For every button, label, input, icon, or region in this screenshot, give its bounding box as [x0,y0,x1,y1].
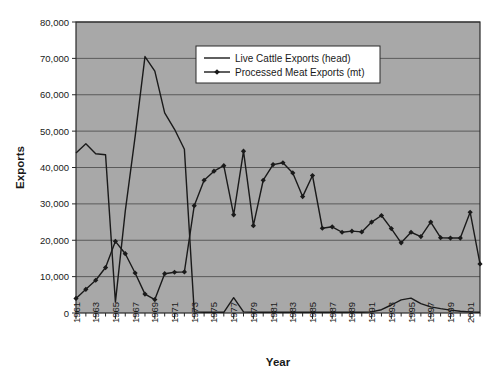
x-axis-tick-label: 1977 [228,302,239,323]
y-axis-tick-label: 60,000 [40,89,69,100]
exports-line-chart: 80,00070,00060,00050,00040,00030,00020,0… [0,0,500,375]
x-axis-tick-label: 1971 [169,302,180,323]
x-axis-tick-label: 1995 [406,302,417,323]
y-axis-title: Exports [14,146,26,189]
x-axis-tick-label: 1969 [149,302,160,323]
x-axis-title: Year [266,356,291,368]
y-axis-tick-label: 10,000 [40,271,69,282]
x-axis-tick-label: 1961 [71,302,82,323]
legend-label-processed-meat: Processed Meat Exports (mt) [235,67,364,78]
legend-label-live-cattle: Live Cattle Exports (head) [235,53,351,64]
y-axis-tick-label: 80,000 [40,17,69,28]
x-axis-tick-label: 1965 [110,302,121,323]
x-axis-tick-label: 1963 [90,302,101,323]
chart-container: 80,00070,00060,00050,00040,00030,00020,0… [0,0,500,375]
y-axis-tick-label: 20,000 [40,235,69,246]
y-axis-tick-label: 0 [64,308,69,319]
x-axis-tick-label: 1999 [445,302,456,323]
y-axis-tick-label: 30,000 [40,198,69,209]
y-axis-tick-label: 50,000 [40,126,69,137]
y-axis-tick-label: 70,000 [40,53,69,64]
y-axis-tick-label: 40,000 [40,162,69,173]
x-axis-tick-label: 1967 [130,302,141,323]
